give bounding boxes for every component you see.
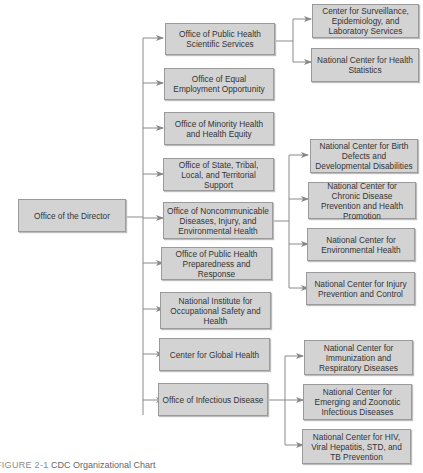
node-equal-employment-opportunity: Office of Equal Employment Opportunity xyxy=(164,68,274,100)
node-state-tribal-local-territorial: Office of State, Tribal, Local, and Terr… xyxy=(163,158,274,191)
node-office-of-the-director: Office of the Director xyxy=(18,199,126,232)
figure-title: CDC Organizational Chart xyxy=(51,460,156,470)
node-global-health: Center for Global Health xyxy=(159,338,270,371)
node-immunization-respiratory: National Center for Immunization and Res… xyxy=(304,340,413,375)
node-birth-defects: National Center for Birth Defects and De… xyxy=(310,139,418,173)
node-chronic-disease: National Center for Chronic Disease Prev… xyxy=(308,182,416,219)
node-surveillance-epidemiology-lab: Center for Surveillance, Epidemiology, a… xyxy=(312,4,419,38)
node-environmental-health: National Center for Environmental Health xyxy=(307,228,415,261)
node-health-statistics: National Center for Health Statistics xyxy=(311,48,419,82)
node-minority-health-equity: Office of Minority Health and Health Equ… xyxy=(164,112,274,145)
node-noncommunicable-diseases: Office of Noncommunicable Diseases, Inju… xyxy=(163,202,273,239)
node-infectious-disease: Office of Infectious Disease xyxy=(158,383,268,416)
figure-label: FIGURE 2-1 xyxy=(0,460,49,470)
node-hiv-hepatitis-std-tb: National Center for HIV, Viral Hepatitis… xyxy=(302,429,411,464)
node-emerging-zoonotic: National Center for Emerging and Zoonoti… xyxy=(303,384,412,420)
node-public-health-scientific-services: Office of Public Health Scientific Servi… xyxy=(165,23,275,55)
node-public-health-preparedness: Office of Public Health Preparedness and… xyxy=(161,247,272,280)
node-niosh: National Institute for Occupational Safe… xyxy=(160,292,271,329)
figure-caption: FIGURE 2-1 CDC Organizational Chart xyxy=(0,460,156,470)
node-injury-prevention: National Center for Injury Prevention an… xyxy=(306,272,415,305)
